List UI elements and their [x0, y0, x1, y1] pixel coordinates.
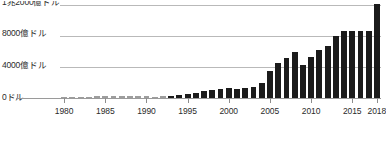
bar-slot	[134, 0, 142, 98]
bar-slot	[200, 0, 208, 98]
bar	[275, 63, 281, 98]
bar-slot	[307, 0, 315, 98]
x-tick	[64, 98, 65, 103]
x-tick	[352, 98, 353, 103]
bar-slot	[208, 0, 216, 98]
xtick-label: 2005	[261, 106, 280, 116]
bar	[349, 31, 355, 98]
bar-slot	[175, 0, 183, 98]
bar-slot	[365, 0, 373, 98]
bar	[267, 71, 273, 98]
bar-slot	[93, 0, 101, 98]
xtick-label: 1990	[137, 106, 156, 116]
xtick-label: 2015	[343, 106, 362, 116]
bar-slot	[85, 0, 93, 98]
bar	[325, 46, 331, 98]
bar-slot	[60, 0, 68, 98]
bar	[218, 89, 224, 98]
x-tick	[311, 98, 312, 103]
x-tick	[146, 98, 147, 103]
xtick-label: 1985	[96, 106, 115, 116]
bar-slot	[167, 0, 175, 98]
bar	[308, 57, 314, 98]
bar	[366, 31, 372, 98]
x-tick	[270, 98, 271, 103]
bar-slot	[142, 0, 150, 98]
bar-slot	[101, 0, 109, 98]
bar-slot	[233, 0, 241, 98]
bar-slot	[356, 0, 364, 98]
bar-slot	[373, 0, 381, 98]
bar-slot	[348, 0, 356, 98]
x-tick	[105, 98, 106, 103]
bar	[358, 31, 364, 98]
bar	[201, 91, 207, 98]
ytick-label-400: 4000億ドル	[2, 60, 47, 70]
bar	[284, 58, 290, 98]
bar	[300, 65, 306, 98]
plot-area	[60, 0, 381, 98]
bar-slot	[126, 0, 134, 98]
bar-slot	[332, 0, 340, 98]
bar-slot	[266, 0, 274, 98]
xtick-label: 2018	[368, 106, 386, 116]
bar	[242, 88, 248, 98]
xtick-label: 1980	[55, 106, 74, 116]
bar-series	[60, 0, 381, 98]
bar-slot	[159, 0, 167, 98]
bar	[292, 52, 298, 98]
x-axis: 198019851990199520002005201020152018	[60, 98, 381, 148]
x-tick	[229, 98, 230, 103]
xtick-label: 1995	[178, 106, 197, 116]
ytick-label-1200: 1兆2000億ドル	[2, 0, 60, 7]
bar-slot	[225, 0, 233, 98]
bar-slot	[118, 0, 126, 98]
bar	[209, 90, 215, 98]
bar-slot	[216, 0, 224, 98]
x-tick	[188, 98, 189, 103]
bar-slot	[299, 0, 307, 98]
bar-slot	[184, 0, 192, 98]
bar	[234, 89, 240, 98]
bar	[333, 36, 339, 98]
bar	[341, 31, 347, 98]
bar-slot	[340, 0, 348, 98]
bar-slot	[151, 0, 159, 98]
bar-slot	[192, 0, 200, 98]
bar	[316, 50, 322, 98]
bar-slot	[324, 0, 332, 98]
bar-slot	[282, 0, 290, 98]
x-tick	[377, 98, 378, 103]
bar	[226, 88, 232, 98]
bar	[251, 87, 257, 98]
x-axis-line	[16, 98, 381, 99]
bar-slot	[109, 0, 117, 98]
xtick-label: 2010	[302, 106, 321, 116]
bar-slot	[291, 0, 299, 98]
xtick-label: 2000	[219, 106, 238, 116]
bar-slot	[241, 0, 249, 98]
ytick-label-0: 0ドル	[2, 92, 24, 102]
bar-slot	[315, 0, 323, 98]
top-clip-mask	[0, 0, 381, 1]
bar-slot	[76, 0, 84, 98]
bar-slot	[249, 0, 257, 98]
bar-slot	[68, 0, 76, 98]
bar-slot	[274, 0, 282, 98]
ytick-label-800: 8000億ドル	[2, 28, 47, 38]
bar-slot	[258, 0, 266, 98]
bar	[259, 83, 265, 98]
bar	[374, 4, 380, 98]
